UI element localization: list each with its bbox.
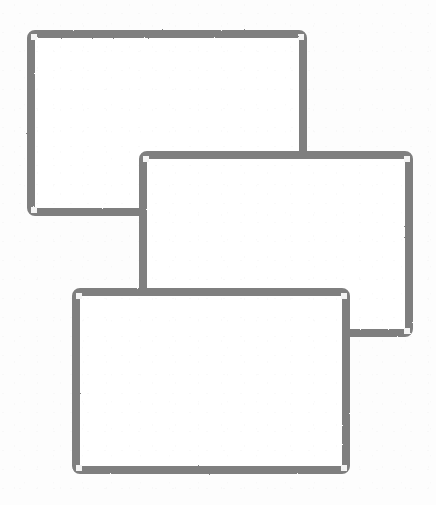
figure-canvas: Three overlapping rectangle outlines Han…: [0, 0, 436, 505]
rect-front-corner-mark-bottom-right: [341, 465, 347, 471]
rect-back-corner-mark-top-right: [298, 34, 304, 40]
overlapping-rectangles-figure: Three overlapping rectangle outlines Han…: [0, 0, 436, 505]
rect-back-corner-mark-bottom-left: [31, 207, 37, 213]
rect-back-corner-mark-top-left: [31, 34, 37, 40]
rect-middle-corner-mark-top-right: [404, 156, 410, 162]
rect-front-corner-mark-top-right: [341, 293, 347, 299]
rect-front-fill: [76, 292, 346, 470]
rect-front-corner-mark-top-left: [76, 293, 82, 299]
rect-front-corner-mark-bottom-left: [76, 465, 82, 471]
rect-middle-corner-mark-bottom-right: [404, 328, 410, 334]
rect-front[interactable]: [76, 292, 347, 471]
rect-middle-corner-mark-top-left: [143, 156, 149, 162]
